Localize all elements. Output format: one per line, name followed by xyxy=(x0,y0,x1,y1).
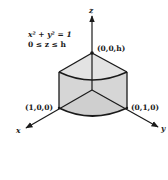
label-z-axis: z xyxy=(88,6,94,15)
label-x-axis: x xyxy=(15,126,21,135)
point-y-marker xyxy=(126,107,128,109)
solid-faces xyxy=(59,53,127,116)
quarter-cylinder-diagram: x² + y² = 1 0 ≤ z ≤ h (0,0,h) (1,0,0) (0… xyxy=(0,0,168,180)
label-x-intercept: (1,0,0) xyxy=(25,103,53,112)
equation-line-1: x² + y² = 1 xyxy=(27,30,72,39)
label-y-axis: y xyxy=(160,124,166,133)
label-top-point: (0,0,h) xyxy=(97,44,125,53)
equation-line-2: 0 ≤ z ≤ h xyxy=(28,40,66,49)
point-x-marker xyxy=(58,107,60,109)
label-y-intercept: (0,1,0) xyxy=(131,103,159,112)
point-top-marker xyxy=(90,51,94,55)
